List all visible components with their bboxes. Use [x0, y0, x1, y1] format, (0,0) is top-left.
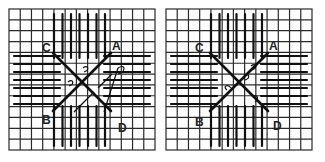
- label-a: A: [269, 39, 278, 53]
- label-d: D: [273, 119, 282, 133]
- diagram-left: C A B D: [8, 8, 156, 151]
- label-b: B: [195, 115, 204, 129]
- canvas-grid-left: C A B D: [8, 8, 156, 151]
- label-d: D: [118, 121, 127, 135]
- diagram-right: C A B D: [165, 8, 313, 151]
- label-b: B: [42, 113, 51, 127]
- label-a: A: [112, 39, 121, 53]
- canvas-grid-right: C A B D: [165, 8, 313, 151]
- label-c: C: [195, 41, 204, 55]
- label-c: C: [42, 41, 51, 55]
